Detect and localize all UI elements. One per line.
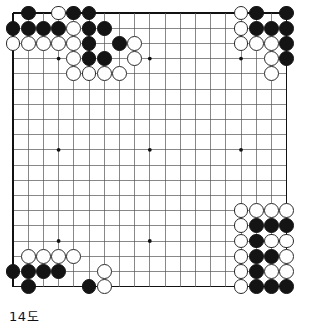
white-stone[interactable] (97, 264, 112, 279)
white-stone[interactable] (234, 249, 249, 264)
white-stone[interactable] (51, 36, 66, 51)
white-stone[interactable] (264, 264, 279, 279)
black-stone[interactable] (21, 264, 36, 279)
black-stone[interactable] (264, 218, 279, 233)
black-stone[interactable] (264, 279, 279, 294)
black-stone[interactable] (279, 6, 294, 21)
white-stone[interactable] (66, 36, 81, 51)
white-stone[interactable] (66, 51, 81, 66)
stone-layer (0, 0, 309, 305)
white-stone[interactable] (97, 66, 112, 81)
black-stone[interactable] (6, 21, 21, 36)
white-stone[interactable] (21, 36, 36, 51)
black-stone[interactable] (82, 279, 97, 294)
black-stone[interactable] (36, 21, 51, 36)
white-stone[interactable] (234, 264, 249, 279)
black-stone[interactable] (249, 6, 264, 21)
black-stone[interactable] (66, 6, 81, 21)
black-stone[interactable] (249, 218, 264, 233)
white-stone[interactable] (21, 249, 36, 264)
white-stone[interactable] (264, 51, 279, 66)
white-stone[interactable] (234, 21, 249, 36)
white-stone[interactable] (234, 279, 249, 294)
white-stone[interactable] (279, 203, 294, 218)
black-stone[interactable] (279, 51, 294, 66)
white-stone[interactable] (66, 66, 81, 81)
white-stone[interactable] (66, 21, 81, 36)
white-stone[interactable] (127, 36, 142, 51)
white-stone[interactable] (234, 234, 249, 249)
black-stone[interactable] (82, 36, 97, 51)
black-stone[interactable] (21, 21, 36, 36)
black-stone[interactable] (21, 6, 36, 21)
black-stone[interactable] (264, 21, 279, 36)
white-stone[interactable] (82, 66, 97, 81)
go-board[interactable] (0, 0, 309, 305)
white-stone[interactable] (264, 36, 279, 51)
black-stone[interactable] (249, 264, 264, 279)
white-stone[interactable] (249, 203, 264, 218)
black-stone[interactable] (249, 249, 264, 264)
white-stone[interactable] (234, 6, 249, 21)
white-stone[interactable] (249, 36, 264, 51)
black-stone[interactable] (279, 36, 294, 51)
white-stone[interactable] (97, 279, 112, 294)
black-stone[interactable] (82, 6, 97, 21)
black-stone[interactable] (21, 279, 36, 294)
white-stone[interactable] (279, 234, 294, 249)
black-stone[interactable] (97, 21, 112, 36)
black-stone[interactable] (51, 264, 66, 279)
white-stone[interactable] (6, 36, 21, 51)
white-stone[interactable] (264, 66, 279, 81)
figure-root: 14도 (0, 0, 309, 333)
black-stone[interactable] (97, 51, 112, 66)
white-stone[interactable] (112, 66, 127, 81)
white-stone[interactable] (279, 264, 294, 279)
black-stone[interactable] (82, 51, 97, 66)
black-stone[interactable] (6, 264, 21, 279)
white-stone[interactable] (51, 6, 66, 21)
black-stone[interactable] (264, 249, 279, 264)
black-stone[interactable] (249, 234, 264, 249)
white-stone[interactable] (234, 218, 249, 233)
white-stone[interactable] (234, 36, 249, 51)
black-stone[interactable] (112, 36, 127, 51)
figure-caption: 14도 (9, 309, 39, 325)
white-stone[interactable] (234, 203, 249, 218)
white-stone[interactable] (279, 249, 294, 264)
black-stone[interactable] (279, 21, 294, 36)
white-stone[interactable] (51, 249, 66, 264)
black-stone[interactable] (279, 279, 294, 294)
white-stone[interactable] (36, 249, 51, 264)
black-stone[interactable] (279, 218, 294, 233)
white-stone[interactable] (264, 203, 279, 218)
white-stone[interactable] (127, 51, 142, 66)
white-stone[interactable] (264, 234, 279, 249)
black-stone[interactable] (36, 264, 51, 279)
black-stone[interactable] (249, 21, 264, 36)
white-stone[interactable] (36, 36, 51, 51)
white-stone[interactable] (66, 249, 81, 264)
black-stone[interactable] (82, 21, 97, 36)
black-stone[interactable] (51, 21, 66, 36)
black-stone[interactable] (249, 279, 264, 294)
